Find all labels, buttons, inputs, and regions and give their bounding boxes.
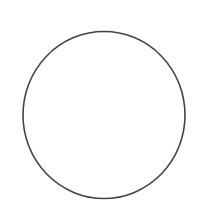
diagram-canvas xyxy=(0,0,200,210)
circle-outline xyxy=(23,32,185,199)
